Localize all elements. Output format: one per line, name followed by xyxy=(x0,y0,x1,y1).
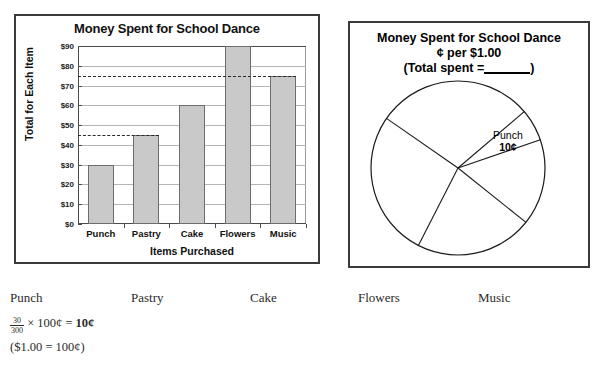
gridline-80 xyxy=(78,66,306,67)
pie-slice-label-punch-value: 10¢ xyxy=(493,141,523,153)
punch-calculation-formula: 30 300 × 100¢ = 10¢ xyxy=(10,316,94,335)
bar-cake xyxy=(179,105,205,224)
bar-pastry xyxy=(133,135,159,224)
formula-result: 10¢ xyxy=(76,316,95,330)
fraction-denominator: 300 xyxy=(10,326,24,335)
bar-chart-x-axis-title: Items Purchased xyxy=(78,245,306,257)
y-tick-mark-60 xyxy=(78,105,82,106)
pie-title-line-1: Money Spent for School Dance xyxy=(350,31,588,46)
total-spent-blank-field[interactable] xyxy=(484,72,530,74)
bar-music xyxy=(270,76,296,224)
y-tick-mark-70 xyxy=(78,86,82,87)
bar-chart-panel: Money Spent for School Dance Total for E… xyxy=(14,14,320,264)
y-tick-mark-40 xyxy=(78,145,82,146)
y-tick-mark-30 xyxy=(78,165,82,166)
x-tick-label-flowers: Flowers xyxy=(215,228,261,239)
fraction-numerator: 30 xyxy=(10,316,24,326)
worksheet-item-music: Music xyxy=(478,290,511,306)
gridline-90 xyxy=(78,46,306,47)
y-tick-label-60: $60 xyxy=(61,101,74,110)
bar-chart-y-tick-labels: $0$10$20$30$40$50$60$70$80$90 xyxy=(44,46,74,224)
y-tick-mark-50 xyxy=(78,125,82,126)
y-tick-label-40: $40 xyxy=(61,140,74,149)
pie-slice-label-punch: Punch 10¢ xyxy=(493,129,523,153)
formula-multiply-expression: × 100¢ = xyxy=(27,316,72,330)
bar-flowers xyxy=(225,46,251,224)
pie-title-total-spent-label: (Total spent = xyxy=(404,61,485,75)
pie-slice-label-punch-name: Punch xyxy=(493,129,523,141)
bar-chart-title: Money Spent for School Dance xyxy=(16,21,318,36)
bar-chart-y-axis-title: Total for Each Item xyxy=(23,19,35,169)
x-tick-label-music: Music xyxy=(260,228,306,239)
y-tick-label-10: $10 xyxy=(61,200,74,209)
y-tick-mark-10 xyxy=(78,204,82,205)
y-tick-label-50: $50 xyxy=(61,121,74,130)
x-tick-label-cake: Cake xyxy=(169,228,215,239)
worksheet-item-pastry: Pastry xyxy=(131,290,164,306)
dashed-reference-line-75 xyxy=(78,76,296,77)
y-tick-label-90: $90 xyxy=(61,42,74,51)
y-tick-mark-20 xyxy=(78,184,82,185)
x-tick-mark-4 xyxy=(306,224,307,228)
y-tick-label-0: $0 xyxy=(65,220,74,229)
dollar-to-cents-note: ($1.00 = 100¢) xyxy=(10,340,85,355)
y-tick-mark-80 xyxy=(78,66,82,67)
y-tick-label-80: $80 xyxy=(61,61,74,70)
worksheet-item-cake: Cake xyxy=(250,290,277,306)
pie-chart-panel: Money Spent for School Dance ¢ per $1.00… xyxy=(348,21,590,268)
plot-right-edge xyxy=(305,46,306,224)
x-tick-label-punch: Punch xyxy=(78,228,124,239)
worksheet-answer-area: Punch Pastry Cake Flowers Music 30 300 ×… xyxy=(0,272,603,371)
y-tick-label-20: $20 xyxy=(61,180,74,189)
y-tick-label-30: $30 xyxy=(61,160,74,169)
x-tick-label-pastry: Pastry xyxy=(124,228,170,239)
pie-chart-title: Money Spent for School Dance ¢ per $1.00… xyxy=(350,31,588,76)
worksheet-item-punch: Punch xyxy=(10,290,43,306)
dashed-reference-line-45 xyxy=(78,135,159,136)
bar-chart-plot-area: PunchPastryCakeFlowersMusic xyxy=(78,46,306,224)
pie-title-line-3: (Total spent =) xyxy=(350,61,588,76)
fraction-30-over-300: 30 300 xyxy=(10,316,24,335)
y-tick-mark-0 xyxy=(78,224,82,225)
pie-title-close-paren: ) xyxy=(530,61,534,75)
y-tick-mark-90 xyxy=(78,46,82,47)
y-tick-label-70: $70 xyxy=(61,81,74,90)
pie-chart-graphic xyxy=(368,78,548,258)
pie-title-line-2: ¢ per $1.00 xyxy=(350,46,588,61)
worksheet-item-flowers: Flowers xyxy=(358,290,400,306)
bar-punch xyxy=(88,165,114,224)
